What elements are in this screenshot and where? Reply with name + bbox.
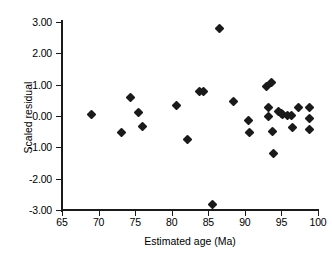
- data-point-marker: [268, 148, 278, 158]
- x-tick-label: 95: [261, 217, 301, 228]
- data-point-marker: [134, 108, 144, 118]
- y-tick-label: 3.00: [6, 17, 52, 28]
- plot-area: [62, 22, 318, 210]
- data-point-marker: [305, 102, 315, 112]
- data-point-marker: [244, 128, 254, 138]
- data-point-marker: [305, 113, 315, 123]
- x-tick-label: 70: [79, 217, 119, 228]
- x-tick-label: 85: [188, 217, 228, 228]
- data-point-marker: [287, 123, 297, 133]
- x-tick-label: 90: [225, 217, 265, 228]
- x-axis-title: Estimated age (Ma): [62, 236, 318, 247]
- data-point-marker: [117, 128, 127, 138]
- data-point-marker: [208, 200, 218, 210]
- data-point-marker: [87, 109, 97, 119]
- data-point-marker: [215, 23, 225, 33]
- data-point-marker: [305, 124, 315, 134]
- data-point-marker: [268, 127, 278, 137]
- y-axis-title: Scaled residual: [23, 38, 34, 198]
- x-tick-label: 80: [152, 217, 192, 228]
- y-tick-label: -3.00: [6, 205, 52, 216]
- data-point-marker: [293, 102, 303, 112]
- data-point-marker: [182, 135, 192, 145]
- data-point-marker: [228, 96, 238, 106]
- data-point-marker: [171, 100, 181, 110]
- data-point-marker: [126, 92, 136, 102]
- scatter-chart: 3.002.001.000.00-1.00-2.00-3.00 65707580…: [0, 0, 332, 262]
- x-tick-label: 75: [115, 217, 155, 228]
- data-point-marker: [138, 122, 148, 132]
- data-point-marker: [264, 112, 274, 122]
- data-point-marker: [244, 115, 254, 125]
- x-tick-label: 100: [298, 217, 332, 228]
- x-tick-label: 65: [42, 217, 82, 228]
